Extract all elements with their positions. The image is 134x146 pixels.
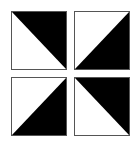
diagonal-triangle-icon bbox=[75, 78, 129, 135]
tile-bottom-left bbox=[11, 77, 67, 136]
diagonal-triangle-icon bbox=[75, 12, 129, 69]
diagonal-triangle-icon bbox=[12, 78, 66, 135]
diagonal-triangle-icon bbox=[12, 12, 66, 69]
tile-top-right bbox=[74, 11, 130, 70]
tile-top-left bbox=[11, 11, 67, 70]
tile-bottom-right bbox=[74, 77, 130, 136]
